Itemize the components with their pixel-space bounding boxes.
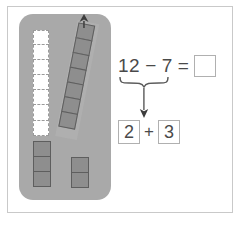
decomposition-left-box[interactable]: 2 — [118, 120, 140, 144]
cube — [33, 141, 51, 157]
plus-operator: + — [144, 122, 154, 142]
cube — [71, 157, 89, 173]
answer-input-box[interactable] — [194, 55, 216, 77]
empty-slot — [33, 60, 49, 75]
arrow-down-icon — [138, 88, 150, 118]
empty-slot — [33, 30, 49, 45]
curly-brace-icon — [119, 76, 169, 88]
minuend: 12 — [118, 55, 140, 77]
decomposition-right-box[interactable]: 3 — [158, 120, 180, 144]
empty-slot — [33, 90, 49, 105]
diagram-canvas: 12 − 7 = 2 + 3 — [0, 0, 242, 226]
equals-sign: = — [178, 55, 190, 77]
cube — [33, 171, 51, 187]
empty-slot — [33, 75, 49, 90]
minus-operator: − — [145, 55, 157, 77]
remaining-stack-left[interactable] — [33, 141, 51, 186]
arrow-up-icon — [78, 14, 90, 28]
empty-cube-frame — [33, 30, 49, 136]
cube — [33, 156, 51, 172]
remaining-stack-right[interactable] — [71, 157, 89, 187]
top-equation: 12 − 7 = — [118, 55, 216, 77]
decomposition-equation: 2 + 3 — [118, 120, 180, 144]
empty-slot — [33, 45, 49, 60]
empty-slot — [33, 121, 49, 136]
cube — [71, 172, 89, 188]
subtrahend: 7 — [162, 55, 173, 77]
cube — [58, 111, 78, 130]
empty-slot — [33, 105, 49, 120]
